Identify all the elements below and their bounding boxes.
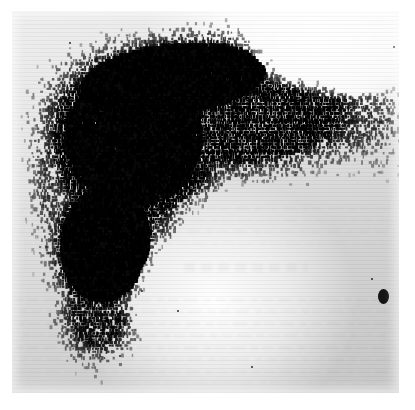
margin-right: [399, 0, 415, 410]
dust-speck: [119, 355, 121, 357]
dust-speck: [177, 310, 179, 312]
dust-speck: [69, 42, 71, 44]
reference-marker-dot: [378, 289, 389, 304]
margin-top: [0, 0, 415, 11]
scintiscan-plate: [12, 11, 399, 393]
isotope-uptake-dot-field: [12, 11, 399, 393]
margin-bottom: [0, 393, 415, 410]
dust-speck: [371, 278, 373, 280]
margin-left: [0, 0, 12, 410]
scan-page: [0, 0, 415, 410]
